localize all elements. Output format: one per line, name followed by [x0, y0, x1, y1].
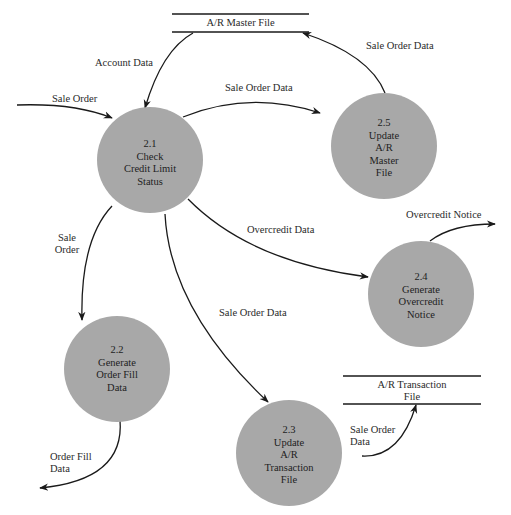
process-2-5-line: File: [331, 167, 437, 180]
flow-overcredit-notice-arrow: [430, 224, 495, 241]
process-2-3-line: Update: [236, 437, 342, 450]
flow-sale-order-21-22-arrow: [82, 206, 112, 320]
data-store-ar-master-label: A/R Master File: [206, 17, 274, 28]
flow-label-account-data: Account Data: [95, 57, 153, 69]
flow-label-sale-order-data-21-23: Sale Order Data: [219, 307, 287, 319]
process-2-5-line: Master: [331, 155, 437, 168]
flow-label-line: Data: [350, 436, 395, 448]
flow-label-sale-order-data-23-trans: Sale Order Data: [350, 424, 395, 448]
process-2-3-line: Transaction: [236, 462, 342, 475]
flow-label-sale-order-21-22: Sale Order: [52, 232, 82, 256]
flow-label-sale-order-data-21-25: Sale Order Data: [225, 82, 293, 94]
process-2-1-id: 2.1: [97, 138, 203, 151]
process-2-5-update-ar-master: 2.5 Update A/R Master File: [331, 93, 437, 199]
data-store-ar-transaction: A/R Transaction File: [343, 379, 481, 403]
flow-account-data-arrow: [145, 33, 193, 108]
process-2-3-line: File: [236, 474, 342, 487]
process-2-4-line: Notice: [368, 309, 474, 322]
process-2-4-id: 2.4: [368, 271, 474, 284]
process-2-2-generate-order-fill-data: 2.2 Generate Order Fill Data: [64, 316, 170, 422]
process-2-4-generate-overcredit-notice: 2.4 Generate Overcredit Notice: [368, 241, 474, 347]
process-2-1-check-credit-limit: 2.1 Check Credit Limit Status: [97, 107, 203, 213]
flow-sale-order-data-21-25-arrow: [183, 102, 320, 117]
flow-label-overcredit-notice: Overcredit Notice: [406, 209, 482, 221]
flow-label-sale-order-in: Sale Order: [52, 93, 97, 105]
process-2-2-id: 2.2: [64, 344, 170, 357]
process-2-4-line: Generate: [368, 284, 474, 297]
flow-label-line: Sale Order: [350, 424, 395, 436]
process-2-3-update-ar-transaction-file: 2.3 Update A/R Transaction File: [236, 400, 342, 506]
process-2-2-line: Data: [64, 382, 170, 395]
process-2-1-line: Credit Limit: [97, 163, 203, 176]
process-2-3-line: A/R: [236, 449, 342, 462]
flow-label-overcredit-data: Overcredit Data: [247, 224, 314, 236]
process-2-5-line: A/R: [331, 142, 437, 155]
data-store-ar-transaction-label-line1: A/R Transaction: [343, 379, 481, 391]
process-2-5-line: Update: [331, 130, 437, 143]
process-2-3-id: 2.3: [236, 424, 342, 437]
flow-label-line: Order Fill: [50, 451, 92, 463]
process-2-4-line: Overcredit: [368, 296, 474, 309]
flow-label-line: Order: [52, 244, 82, 256]
flow-label-sale-order-data-25-master: Sale Order Data: [366, 40, 434, 52]
process-2-2-line: Order Fill: [64, 369, 170, 382]
flow-label-line: Data: [50, 463, 92, 475]
data-store-ar-master: A/R Master File: [172, 17, 309, 29]
flow-sale-order-in-arrow: [17, 105, 112, 118]
flow-label-line: Sale: [52, 232, 82, 244]
flow-label-order-fill-data: Order Fill Data: [50, 451, 92, 475]
process-2-2-line: Generate: [64, 357, 170, 370]
process-2-1-line: Status: [97, 176, 203, 189]
flow-overcredit-data-arrow: [188, 199, 368, 277]
data-store-ar-transaction-label-line2: File: [343, 391, 481, 403]
process-2-5-id: 2.5: [331, 117, 437, 130]
process-2-1-line: Check: [97, 151, 203, 164]
